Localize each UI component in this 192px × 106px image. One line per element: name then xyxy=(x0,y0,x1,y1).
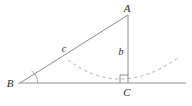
dashed-parabola-curve xyxy=(68,58,178,79)
vertex-label-a: A xyxy=(123,2,131,14)
vertex-label-c: C xyxy=(123,86,131,98)
vertex-label-b: B xyxy=(7,77,14,89)
side-label-b: b xyxy=(119,46,124,57)
hypotenuse-segment-c xyxy=(20,15,128,83)
geometry-figure: A B C c b xyxy=(0,0,192,106)
side-label-c: c xyxy=(62,43,67,54)
geometry-canvas: A B C c b xyxy=(0,0,192,106)
